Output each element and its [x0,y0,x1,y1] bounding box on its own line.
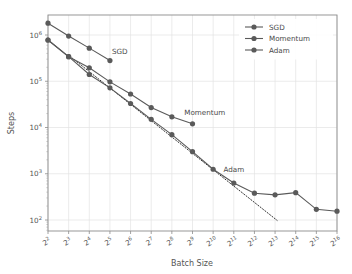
data-point [314,207,319,212]
x-tick-label: 213 [266,234,281,248]
data-point [149,117,154,122]
y-tick-label: 105 [30,76,42,86]
x-tick-label: 210 [204,234,219,248]
data-point [252,191,257,196]
data-point [128,101,133,106]
data-point [272,192,277,197]
x-tick-label: 216 [328,234,343,248]
data-point [87,46,92,51]
chart-legend: SGDMomentumAdam [239,19,333,60]
series-annotations: SGDMomentumAdam [112,47,244,173]
legend-item-momentum: Momentum [269,34,310,43]
legend-item-adam: Adam [269,46,290,55]
data-point [190,149,195,154]
series-line-sgd [48,23,110,60]
x-tick-label: 29 [185,235,197,248]
data-point [66,33,71,38]
data-point [87,72,92,77]
reference-line [70,56,277,220]
data-point [45,37,50,42]
data-point [45,21,50,26]
y-axis-label: Steps [7,112,16,134]
data-point [211,167,216,172]
x-tick-label: 25 [103,235,115,248]
x-tick-label: 211 [225,234,240,248]
x-tick-label: 215 [308,234,323,248]
data-point [169,132,174,137]
annotation-momentum: Momentum [184,108,225,117]
legend-item-sgd: SGD [269,23,285,32]
x-tick-label: 24 [82,235,94,248]
data-point [293,190,298,195]
data-point [107,79,112,84]
x-tick-label: 23 [61,235,73,248]
data-point [231,180,236,185]
legend-swatch-dot [251,24,256,29]
annotation-sgd: SGD [112,47,128,56]
chart-figure: 2223242526272829210211212213214215216102… [0,0,352,274]
data-point [128,91,133,96]
legend-swatch-dot [251,47,256,52]
legend-swatch-dot [251,36,256,41]
x-tick-label: 27 [144,235,156,248]
data-point [107,58,112,63]
series-sgd [45,21,112,64]
x-tick-label: 22 [41,235,53,248]
y-tick-label: 104 [30,122,43,132]
x-tick-label: 214 [287,234,302,249]
data-point [66,54,71,59]
x-axis-label: Batch Size [171,259,213,268]
data-point [169,114,174,119]
x-tick-label: 28 [164,235,176,248]
data-point [107,85,112,90]
data-point [334,209,339,214]
annotation-adam: Adam [223,165,244,174]
data-point [87,65,92,70]
reference-line-perfect-scaling [70,56,277,220]
scaling-line-chart: 2223242526272829210211212213214215216102… [0,0,352,274]
data-point [190,121,195,126]
y-tick-label: 103 [30,168,42,178]
y-tick-label: 106 [30,30,42,40]
data-point [149,105,154,110]
x-tick-label: 212 [246,234,261,248]
y-tick-label: 102 [30,215,42,225]
x-tick-label: 26 [123,235,135,248]
